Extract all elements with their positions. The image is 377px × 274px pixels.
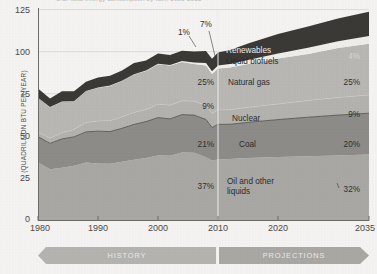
series-label-oil-line2: liquids: [227, 187, 250, 196]
y-axis-label: (QUADRILLION BTU PER YEAR): [20, 52, 27, 192]
percent-natural-gas-2010: 25%: [188, 78, 214, 87]
percent-coal-2035: 20%: [334, 140, 360, 149]
x-tick-2035: 2035: [345, 223, 377, 233]
percent-nuclear-2035: 9%: [334, 110, 360, 119]
banner-projections-label: PROJECTIONS: [219, 251, 369, 260]
percent-oil-2010: 37%: [188, 182, 214, 191]
x-tick-2010: 2010: [198, 223, 238, 233]
banner-history-label: HISTORY: [38, 251, 216, 260]
series-label-natural-gas: Natural gas: [228, 78, 270, 87]
percent-natural-gas-2035: 25%: [334, 78, 360, 87]
percent-nuclear-2010: 9%: [188, 102, 214, 111]
percent-biofuels-2035: 4%: [334, 52, 360, 61]
series-label-renewables: Renewables: [226, 46, 271, 55]
percent-oil-2035: 32%: [334, 185, 360, 194]
leader-line-7pct: [209, 31, 215, 56]
chart-canvas: U.S. total energy consumption by fuel, 1…: [0, 0, 377, 274]
percent-renewables-inner-2010: 1%: [178, 28, 190, 37]
percent-renewables-outer-2010: 7%: [200, 20, 212, 29]
percent-coal-2010: 21%: [188, 140, 214, 149]
x-tick-2020: 2020: [258, 223, 298, 233]
x-tick-1990: 1990: [78, 223, 118, 233]
series-label-nuclear: Nuclear: [232, 114, 260, 123]
series-label-oil-line1: Oil and other: [227, 177, 274, 186]
history-projections-banner: HISTORY PROJECTIONS: [38, 247, 369, 264]
x-tick-2000: 2000: [138, 223, 178, 233]
y-tick-125: 125: [4, 5, 30, 15]
series-label-liquid-biofuels: Liquid biofuels: [226, 57, 278, 66]
series-label-coal: Coal: [239, 140, 256, 149]
x-tick-1980: 1980: [20, 223, 60, 233]
leader-line-1pct: [189, 36, 196, 47]
